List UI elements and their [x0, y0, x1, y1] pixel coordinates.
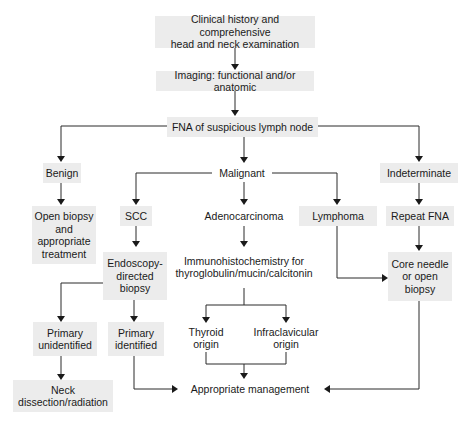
node-immunohistochemistry: Immunohistochemistry for thyroglobulin/m…: [180, 251, 308, 283]
node-neck-dissection: Neck dissection/radiation: [13, 380, 113, 412]
node-open-biopsy: Open biopsy and appropriate treatment: [32, 206, 96, 264]
node-malignant: Malignant: [212, 164, 272, 182]
node-infraclavicular-origin: Infraclavicular origin: [250, 324, 322, 352]
node-fna: FNA of suspicious lymph node: [167, 117, 318, 137]
node-primary-unidentified: Primary unidentified: [33, 322, 97, 356]
node-benign: Benign: [43, 163, 81, 183]
node-endoscopy-biopsy: Endoscopy- directed biopsy: [103, 252, 167, 300]
node-appropriate-management: Appropriate management: [180, 380, 320, 398]
node-clinical-history: Clinical history and comprehensive head …: [155, 16, 315, 48]
node-adenocarcinoma: Adenocarcinoma: [198, 207, 290, 225]
node-thyroid-origin: Thyroid origin: [183, 324, 229, 352]
node-imaging: Imaging: functional and/or anatomic: [156, 71, 314, 91]
node-scc: SCC: [120, 206, 152, 226]
node-repeat-fna: Repeat FNA: [386, 206, 454, 226]
node-lymphoma: Lymphoma: [299, 206, 377, 226]
node-indeterminate: Indeterminate: [380, 163, 458, 183]
node-core-needle-biopsy: Core needle or open biopsy: [388, 252, 452, 301]
node-primary-identified: Primary identified: [108, 322, 164, 356]
